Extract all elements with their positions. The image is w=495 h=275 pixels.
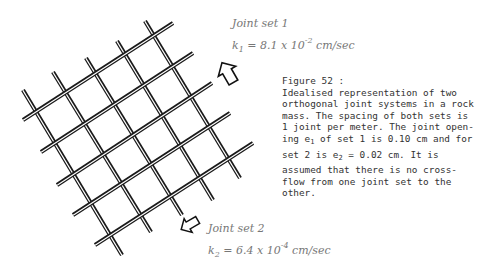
joint-line-gap: [23, 23, 173, 120]
caption-line: set 2 is e2 = 0.02 cm. It is: [282, 149, 492, 165]
figure-number: Figure 52 :: [282, 75, 492, 87]
caption-line: 1 joint per meter. The joint open-: [282, 121, 492, 133]
k2-symbol: k: [208, 244, 215, 257]
caption-text: set 2 is e: [282, 149, 338, 160]
joint-line-gap: [41, 53, 193, 152]
caption-line: Idealised representation of two: [282, 87, 492, 99]
k1-symbol: k: [232, 39, 239, 52]
k2-value: = 6.4 x 10: [220, 244, 281, 257]
flow-arrow-set-2-icon: [177, 213, 201, 236]
caption-text: = 0.02 cm. It is: [343, 149, 439, 160]
flow-arrow-set-1-icon: [213, 58, 242, 88]
caption-line: ing e1 of set 1 is 0.10 cm and for: [282, 133, 492, 149]
caption-line: orthogonal joint systems in a rock: [282, 98, 492, 110]
joint-line-gap: [53, 72, 151, 232]
caption-line: mass. The spacing of both sets is: [282, 110, 492, 122]
k1-unit: cm/sec: [312, 39, 354, 52]
k1-value: = 8.1 x 10: [244, 39, 305, 52]
caption-line: flow from one joint set to the: [282, 176, 492, 188]
caption-text: of set 1 is 0.10 cm and for: [314, 133, 472, 144]
k2-unit: cm/sec: [288, 244, 330, 257]
joint-set-1-permeability: k1 = 8.1 x 10-2 cm/sec: [232, 36, 355, 54]
caption-text: ing e: [282, 133, 310, 144]
caption-line: other.: [282, 187, 492, 199]
joint-set-2-permeability: k2 = 6.4 x 10-4 cm/sec: [208, 241, 331, 259]
joint-line-gap: [145, 21, 240, 178]
joint-line-gap: [73, 113, 230, 215]
joint-set-1-title: Joint set 1: [232, 17, 289, 30]
figure-caption: Figure 52 : Idealised representation of …: [282, 75, 492, 199]
caption-line: assumed that there is no cross-: [282, 164, 492, 176]
joint-line-gap: [57, 83, 212, 185]
joint-set-2-title: Joint set 2: [208, 222, 265, 235]
